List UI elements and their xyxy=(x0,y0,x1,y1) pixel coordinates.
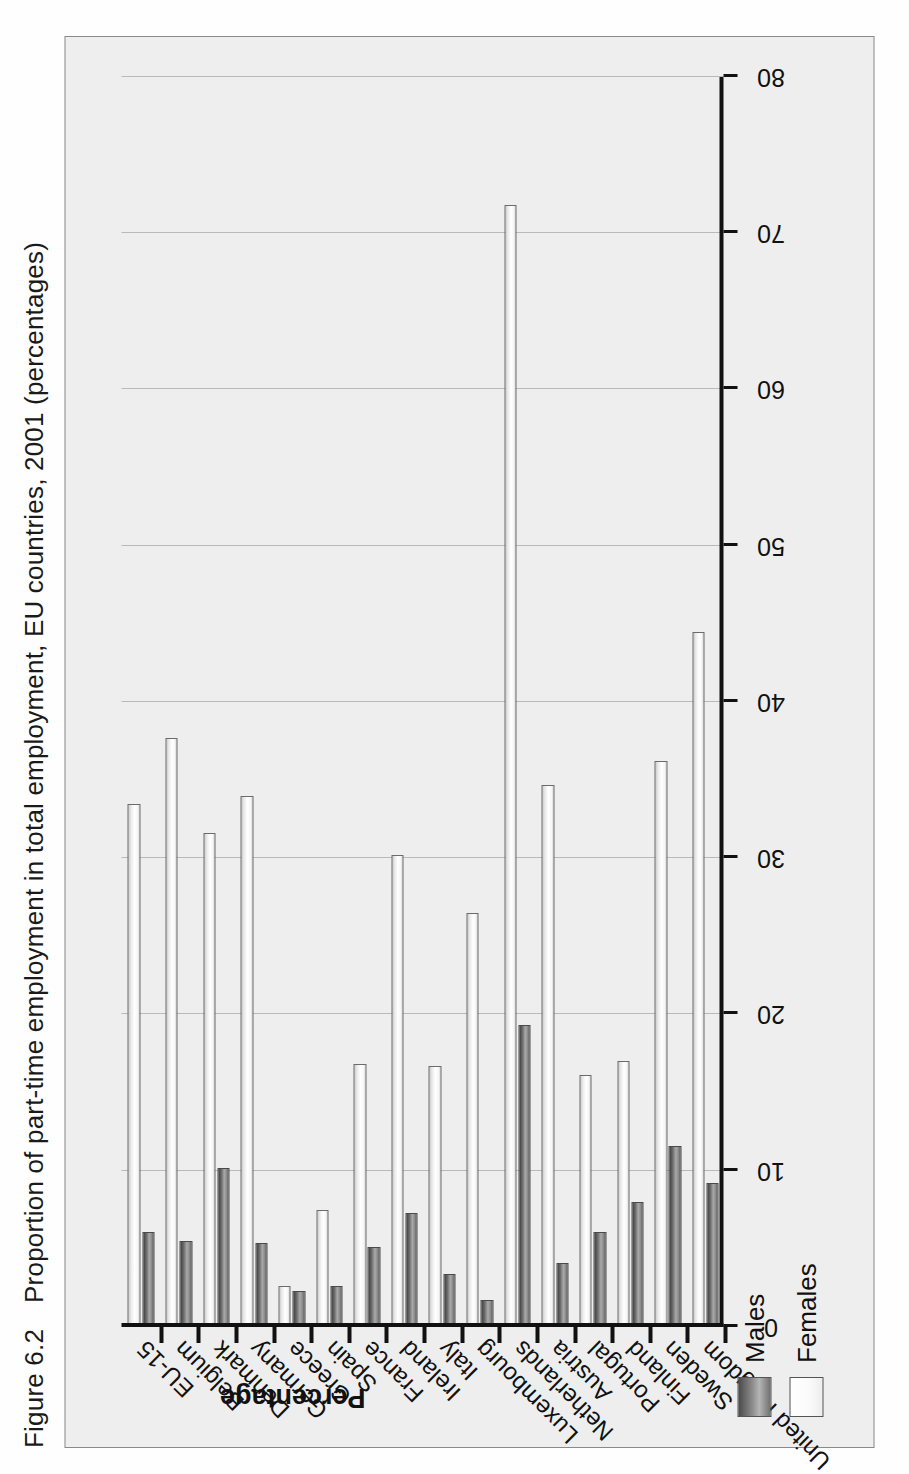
category-tick xyxy=(234,1327,238,1343)
bar-females xyxy=(692,632,704,1327)
chart-frame: Percentage 01020304050607080 EU-15Belgiu… xyxy=(64,36,874,1448)
figure-title: Figure 6.2Proportion of part-time employ… xyxy=(18,242,49,1448)
legend-item: Females xyxy=(789,1263,823,1417)
category-tick xyxy=(723,1327,727,1343)
category-tick xyxy=(272,1327,276,1343)
axis-tick xyxy=(723,543,737,546)
figure-number: Figure 6.2 xyxy=(18,1329,48,1448)
bar-females xyxy=(504,205,516,1327)
value-axis-line xyxy=(719,77,723,1327)
bar-males xyxy=(367,1247,379,1327)
axis-tick-label: 60 xyxy=(757,375,785,404)
bar-females xyxy=(316,1210,328,1327)
category-tick xyxy=(384,1327,388,1343)
axis-tick xyxy=(723,1168,737,1171)
bar-males xyxy=(631,1202,643,1327)
category-tick xyxy=(159,1327,163,1343)
figure-title-text: Proportion of part-time employment in to… xyxy=(18,242,48,1303)
axis-tick-label: 30 xyxy=(757,844,785,873)
bar-males xyxy=(443,1274,455,1327)
females-swatch-icon xyxy=(789,1377,823,1417)
category-tick xyxy=(497,1327,501,1343)
bar-females xyxy=(391,855,403,1327)
legend-label: Males xyxy=(739,1294,770,1363)
category-tick xyxy=(347,1327,351,1343)
axis-tick-label: 50 xyxy=(757,531,785,560)
bar-females xyxy=(353,1065,365,1328)
males-swatch-icon xyxy=(737,1377,771,1417)
axis-tick xyxy=(723,74,737,77)
bar-males xyxy=(255,1243,267,1327)
category-tick xyxy=(309,1327,313,1343)
axis-tick xyxy=(723,699,737,702)
bar-males xyxy=(593,1232,605,1327)
bar-males xyxy=(518,1025,530,1327)
category-tick xyxy=(196,1327,200,1343)
bar-females xyxy=(165,738,177,1327)
figure-page: Figure 6.2Proportion of part-time employ… xyxy=(0,0,909,1474)
category-tick xyxy=(535,1327,539,1343)
bar-males xyxy=(217,1168,229,1327)
bar-series-container xyxy=(121,77,723,1327)
axis-tick-label: 80 xyxy=(757,63,785,92)
bar-males xyxy=(179,1241,191,1327)
bar-females xyxy=(654,761,666,1327)
axis-tick-label: 70 xyxy=(757,219,785,248)
category-tick xyxy=(685,1327,689,1343)
bar-males xyxy=(405,1213,417,1327)
bar-females xyxy=(617,1061,629,1327)
bar-females xyxy=(278,1286,290,1327)
bar-females xyxy=(579,1075,591,1327)
bar-males xyxy=(292,1291,304,1327)
axis-tick xyxy=(723,230,737,233)
bar-females xyxy=(203,833,215,1327)
axis-tick xyxy=(723,1012,737,1015)
bar-males xyxy=(706,1183,718,1327)
legend-label: Females xyxy=(791,1263,822,1363)
bar-males xyxy=(556,1263,568,1327)
category-tick xyxy=(610,1327,614,1343)
bar-females xyxy=(240,796,252,1327)
category-tick xyxy=(422,1327,426,1343)
bar-females xyxy=(127,804,139,1327)
bar-females xyxy=(466,913,478,1327)
category-tick xyxy=(648,1327,652,1343)
axis-tick xyxy=(723,855,737,858)
bar-males xyxy=(668,1146,680,1327)
chart-legend: MalesFemales xyxy=(737,1117,847,1417)
axis-tick-label: 20 xyxy=(757,1000,785,1029)
axis-tick-label: 40 xyxy=(757,688,785,717)
bar-males xyxy=(142,1232,154,1327)
axis-tick xyxy=(723,387,737,390)
plot-area: 01020304050607080 EU-15BelgiumDenmarkGer… xyxy=(121,77,723,1327)
rotated-figure-stage: Figure 6.2Proportion of part-time employ… xyxy=(0,0,909,1474)
bar-females xyxy=(541,785,553,1327)
bar-females xyxy=(428,1066,440,1327)
bar-males xyxy=(330,1286,342,1327)
legend-item: Males xyxy=(737,1294,771,1417)
category-tick xyxy=(460,1327,464,1343)
category-tick xyxy=(573,1327,577,1343)
